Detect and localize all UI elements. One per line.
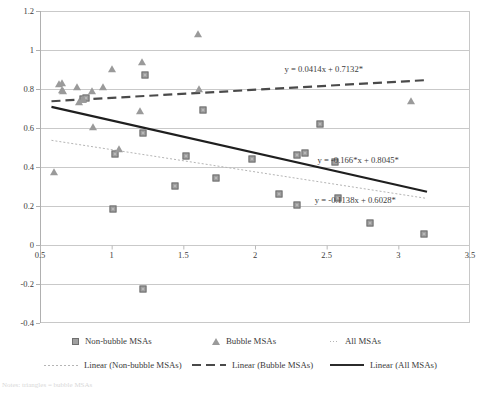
data-point-non-bubble (140, 286, 147, 293)
dashed-line-icon (192, 364, 226, 366)
legend-item[interactable]: Non-bubble MSAs (72, 330, 152, 352)
y-tick-mark (36, 11, 40, 12)
x-axis-tick-label: 2.5 (321, 251, 332, 260)
data-point-non-bubble (293, 152, 300, 159)
y-axis-tick-label: -0.4 (0, 319, 34, 328)
y-axis-tick-label: 1 (0, 46, 34, 55)
data-point-bubble (59, 87, 67, 94)
data-point-non-bubble (276, 191, 283, 198)
data-point-bubble (136, 107, 144, 114)
x-axis-tick-label: 2 (253, 251, 257, 260)
legend-label: Linear (Bubble MSAs) (232, 361, 313, 370)
triangle-marker-icon (212, 338, 220, 345)
legend-item[interactable]: Bubble MSAs (212, 330, 276, 352)
plot-canvas (40, 11, 470, 323)
y-tick-mark (36, 206, 40, 207)
data-point-non-bubble (366, 219, 373, 226)
data-point-bubble (99, 83, 107, 90)
data-point-non-bubble (293, 201, 300, 208)
dotted-line-icon (44, 365, 78, 366)
y-axis-tick-label: 0.8 (0, 85, 34, 94)
y-axis-tick-label: 0.2 (0, 202, 34, 211)
data-point-bubble (195, 85, 203, 92)
data-point-non-bubble (421, 231, 428, 238)
data-point-bubble (79, 95, 87, 102)
y-tick-mark (36, 245, 40, 246)
dot-marker-icon (330, 338, 339, 345)
data-point-non-bubble (141, 71, 148, 78)
legend-label: Non-bubble MSAs (85, 337, 152, 346)
plot-area: y = 0.0414x + 0.7132*y = -0.166*x + 0.80… (40, 11, 470, 323)
data-point-non-bubble (302, 150, 309, 157)
legend-item[interactable]: Linear (All MSAs) (330, 354, 437, 376)
legend-label: Bubble MSAs (226, 337, 276, 346)
y-axis-tick-label: -0.2 (0, 280, 34, 289)
data-point-bubble (407, 97, 415, 104)
y-axis-tick-label: 0.6 (0, 124, 34, 133)
legend-item[interactable]: All MSAs (330, 330, 381, 352)
data-point-bubble (88, 87, 96, 94)
y-tick-mark (36, 89, 40, 90)
y-tick-mark (36, 50, 40, 51)
legend-row-lines: Linear (Non-bubble MSAs)Linear (Bubble M… (0, 354, 496, 376)
data-point-bubble (58, 79, 66, 86)
legend-label: Linear (All MSAs) (370, 361, 437, 370)
data-point-bubble (108, 65, 116, 72)
equation-label-1: y = 0.0414x + 0.7132* (285, 65, 363, 74)
figure-footnote: Notes: triangles = bubble MSAs (2, 381, 92, 389)
data-point-non-bubble (200, 106, 207, 113)
x-axis-tick-label: 3 (396, 251, 400, 260)
legend-item[interactable]: Linear (Bubble MSAs) (192, 354, 313, 376)
data-point-non-bubble (213, 174, 220, 181)
data-point-bubble (138, 58, 146, 65)
x-axis-tick-label: 1.5 (178, 251, 189, 260)
data-point-bubble (89, 123, 97, 130)
data-point-bubble (50, 169, 58, 176)
chart-legend: Non-bubble MSAsBubble MSAsAll MSAs Linea… (0, 330, 496, 378)
y-axis-tick-label: 0.4 (0, 163, 34, 172)
y-tick-mark (36, 167, 40, 168)
chart-figure: y = 0.0414x + 0.7132*y = -0.166*x + 0.80… (0, 0, 496, 394)
data-point-non-bubble (249, 155, 256, 162)
y-tick-mark (36, 284, 40, 285)
y-axis-tick-label: 0 (0, 241, 34, 250)
data-point-bubble (194, 30, 202, 37)
data-point-non-bubble (171, 182, 178, 189)
legend-label: All MSAs (345, 337, 381, 346)
x-axis-tick-label: 1 (110, 251, 114, 260)
equation-label-3: y = -0.1138x + 0.6028* (315, 196, 396, 205)
equation-label-2: y = -0.166*x + 0.8045* (318, 156, 399, 165)
legend-row-markers: Non-bubble MSAsBubble MSAsAll MSAs (0, 330, 496, 352)
data-point-non-bubble (140, 130, 147, 137)
data-point-bubble (73, 83, 81, 90)
solid-line-icon (330, 364, 364, 366)
square-marker-icon (72, 338, 79, 345)
y-tick-mark (36, 323, 40, 324)
y-axis-tick-label: 1.2 (0, 7, 34, 16)
x-axis-tick-label: 3.5 (465, 251, 476, 260)
legend-label: Linear (Non-bubble MSAs) (84, 361, 182, 370)
trendline-dashed (51, 80, 427, 101)
legend-item[interactable]: Linear (Non-bubble MSAs) (44, 354, 182, 376)
y-tick-mark (36, 128, 40, 129)
data-point-bubble (115, 146, 123, 153)
data-point-non-bubble (110, 205, 117, 212)
x-axis-tick-label: 0.5 (35, 251, 46, 260)
data-point-non-bubble (316, 120, 323, 127)
data-point-non-bubble (183, 153, 190, 160)
